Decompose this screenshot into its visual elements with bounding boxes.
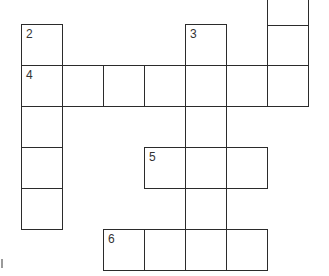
edge-mark (1, 259, 3, 268)
crossword-cell[interactable]: 5 (144, 147, 186, 189)
crossword-cell[interactable] (267, 65, 309, 107)
crossword-cell[interactable] (185, 147, 227, 189)
crossword-cell[interactable]: 2 (21, 24, 63, 66)
crossword-cell[interactable]: 4 (21, 65, 63, 107)
crossword-cell[interactable] (103, 65, 145, 107)
crossword-cell[interactable] (144, 65, 186, 107)
crossword-cell[interactable] (267, 25, 309, 67)
crossword-cell[interactable] (21, 147, 63, 189)
crossword-cell[interactable] (185, 188, 227, 230)
crossword-cell[interactable] (144, 229, 186, 271)
crossword-cell[interactable] (62, 65, 104, 107)
crossword-cell[interactable] (267, 0, 309, 27)
crossword-cell[interactable] (226, 229, 268, 271)
clue-number: 3 (190, 27, 197, 41)
crossword-cell[interactable] (185, 65, 227, 107)
clue-number: 5 (149, 150, 156, 164)
clue-number: 2 (26, 27, 33, 41)
clue-number: 4 (26, 68, 33, 82)
crossword-cell[interactable] (185, 229, 227, 271)
crossword-cell[interactable]: 3 (185, 24, 227, 66)
crossword-cell[interactable] (21, 106, 63, 148)
crossword-cell[interactable] (226, 147, 268, 189)
crossword-cell[interactable] (226, 65, 268, 107)
crossword-cell[interactable] (21, 188, 63, 230)
crossword-cell[interactable] (185, 106, 227, 148)
clue-number: 6 (108, 232, 115, 246)
crossword-cell[interactable]: 6 (103, 229, 145, 271)
